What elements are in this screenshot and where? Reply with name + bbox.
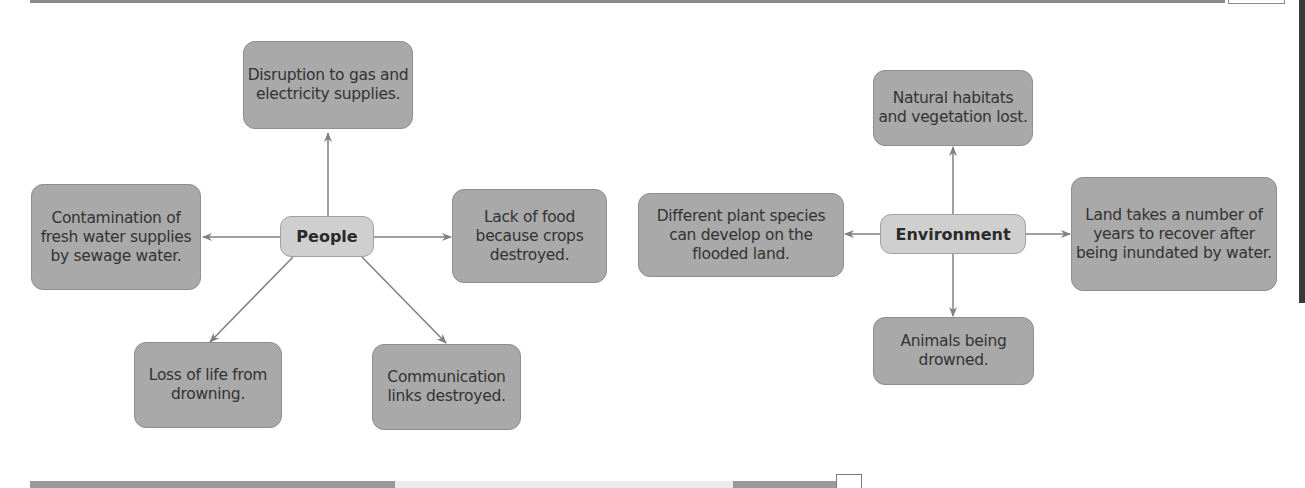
bottom-bar-segment [733,481,836,488]
node-text: Lack of food because crops destroyed. [456,208,603,265]
env-node-bottom: Animals being drowned. [873,317,1034,385]
env-node-right: Land takes a number of years to recover … [1071,177,1277,291]
people-node-top: Disruption to gas and electricity suppli… [243,41,413,129]
hub-label: Environment [895,225,1010,244]
node-text: Animals being drowned. [877,332,1030,370]
arrow-people-bottom-left [210,257,293,342]
arrow-people-bottom-right [362,257,446,343]
bottom-bar-segment [395,481,733,488]
hub-label: People [296,227,357,246]
env-node-left: Different plant species can develop on t… [638,193,844,277]
bottom-page-tab [836,474,862,488]
node-text: Different plant species can develop on t… [642,207,840,264]
node-text: Natural habitats and vegetation lost. [877,89,1029,127]
node-text: Communication links destroyed. [376,368,517,406]
people-node-bottom-right: Communication links destroyed. [372,344,521,430]
people-node-bottom-left: Loss of life from drowning. [134,342,282,428]
bottom-bar-segment [30,481,395,488]
node-text: Loss of life from drowning. [138,366,278,404]
node-text: Land takes a number of years to recover … [1075,206,1273,263]
people-node-left: Contamination of fresh water supplies by… [31,184,201,290]
people-node-right: Lack of food because crops destroyed. [452,189,607,283]
node-text: Disruption to gas and electricity suppli… [247,66,409,104]
env-node-top: Natural habitats and vegetation lost. [873,70,1033,146]
people-hub: People [280,216,374,257]
node-text: Contamination of fresh water supplies by… [35,209,197,266]
environment-hub: Environment [880,214,1026,254]
